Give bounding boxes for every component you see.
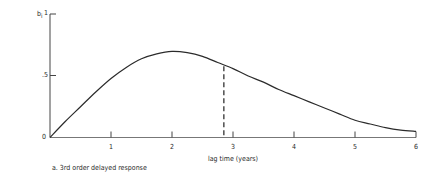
y-axis-label: bi: [37, 11, 43, 19]
x-ticks: [111, 132, 416, 138]
x-tick-label-5: 5: [353, 144, 357, 151]
response-curve: [50, 51, 416, 137]
x-axis-title: lag time (years): [208, 156, 258, 163]
x-tick-label-6: 6: [414, 144, 418, 151]
x-tick-label-4: 4: [292, 144, 296, 151]
chart-canvas: [0, 0, 440, 177]
chart-caption: a. 3rd order delayed response: [52, 165, 147, 172]
y-tick-label-0: 0: [42, 134, 46, 141]
y-tick-label-half: .5: [42, 72, 48, 79]
x-tick-label-1: 1: [109, 144, 113, 151]
x-tick-label-3: 3: [231, 144, 235, 151]
y-axis-subscript: i: [41, 12, 43, 19]
y-tick-label-1: 1: [44, 10, 48, 17]
x-tick-label-2: 2: [170, 144, 174, 151]
